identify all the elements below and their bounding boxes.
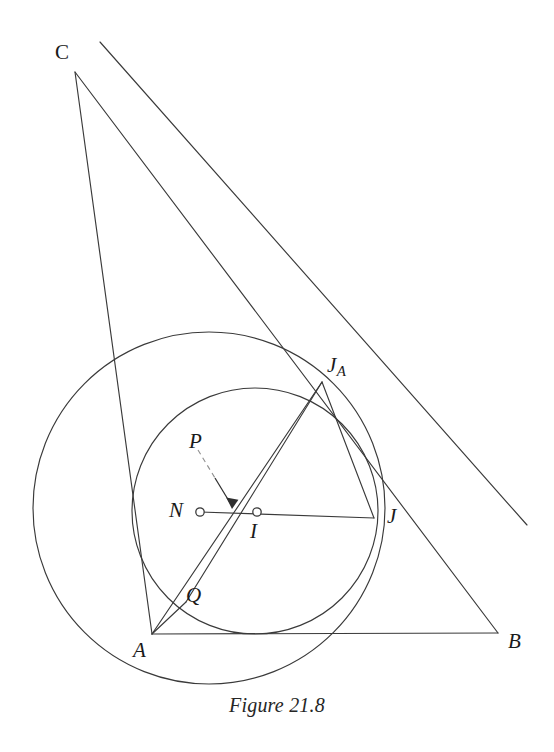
geometry-figure-canvas	[0, 0, 554, 752]
label-point-I: I	[250, 521, 257, 542]
figure-strokes	[33, 42, 527, 684]
label-point-JA: JA	[327, 355, 346, 379]
segment-AB	[152, 633, 498, 634]
segment-N-to-J	[200, 512, 374, 518]
marker-point-I	[253, 508, 261, 516]
label-point-N: N	[169, 500, 183, 521]
segment-JA-to-J	[322, 382, 374, 518]
tangent-line-external	[100, 42, 527, 525]
label-point-JA-subscript: A	[337, 363, 346, 379]
segment-Q-to-A	[152, 602, 186, 634]
figure-caption: Figure 21.8	[0, 694, 554, 717]
p-arrow-head	[226, 498, 238, 510]
figure-page: C A B N I J P Q JA Figure 21.8	[0, 0, 554, 752]
label-point-JA-main: J	[327, 353, 336, 377]
label-point-P: P	[189, 431, 202, 452]
label-point-C: C	[55, 42, 69, 63]
p-callout	[198, 450, 238, 509]
p-leader-dashed	[198, 450, 215, 478]
label-point-A: A	[133, 640, 146, 661]
a-excircle	[33, 332, 385, 684]
label-point-J: J	[387, 506, 396, 527]
label-point-B: B	[508, 631, 521, 652]
segment-JA-to-Q	[186, 382, 322, 602]
segment-CA	[75, 72, 152, 634]
label-point-Q: Q	[186, 585, 201, 606]
marker-point-N	[196, 508, 204, 516]
